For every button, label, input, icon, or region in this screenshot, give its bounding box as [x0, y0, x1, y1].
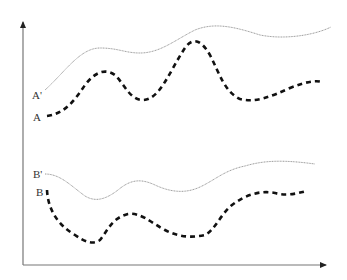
diagram-canvas: A' A B' B: [0, 0, 347, 280]
label-a: A: [33, 112, 41, 123]
curve-b: [47, 190, 307, 242]
diagram-svg: [0, 0, 347, 280]
label-b-prime: B': [33, 169, 42, 180]
curve-a: [47, 41, 322, 116]
label-b: B: [36, 187, 43, 198]
label-a-prime: A': [32, 90, 42, 101]
